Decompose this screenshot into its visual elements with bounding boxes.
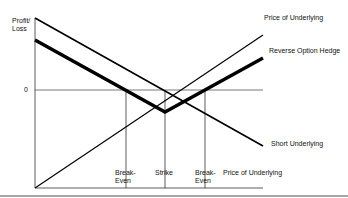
reverse-option-hedge-line [35, 40, 263, 112]
short-underlying-line [35, 18, 263, 146]
price-of-underlying-label: Price of Underlying [264, 14, 323, 22]
y-axis-label-line1: Profit/ [12, 17, 30, 25]
break-even-right-label-1: Break- [195, 169, 216, 177]
payoff-diagram [0, 0, 348, 198]
break-even-left-label-2: Even [115, 177, 131, 185]
y-axis-label-line2: Loss [12, 25, 27, 33]
zero-label: 0 [24, 86, 28, 94]
x-axis-label: Price of Underlying [223, 169, 282, 177]
break-even-left-label-1: Break- [115, 169, 136, 177]
short-underlying-label: Short Underlying [271, 140, 323, 148]
strike-label: Strike [155, 169, 173, 177]
reverse-option-hedge-label: Reverse Option Hedge [269, 47, 340, 55]
break-even-right-label-2: Even [195, 177, 211, 185]
